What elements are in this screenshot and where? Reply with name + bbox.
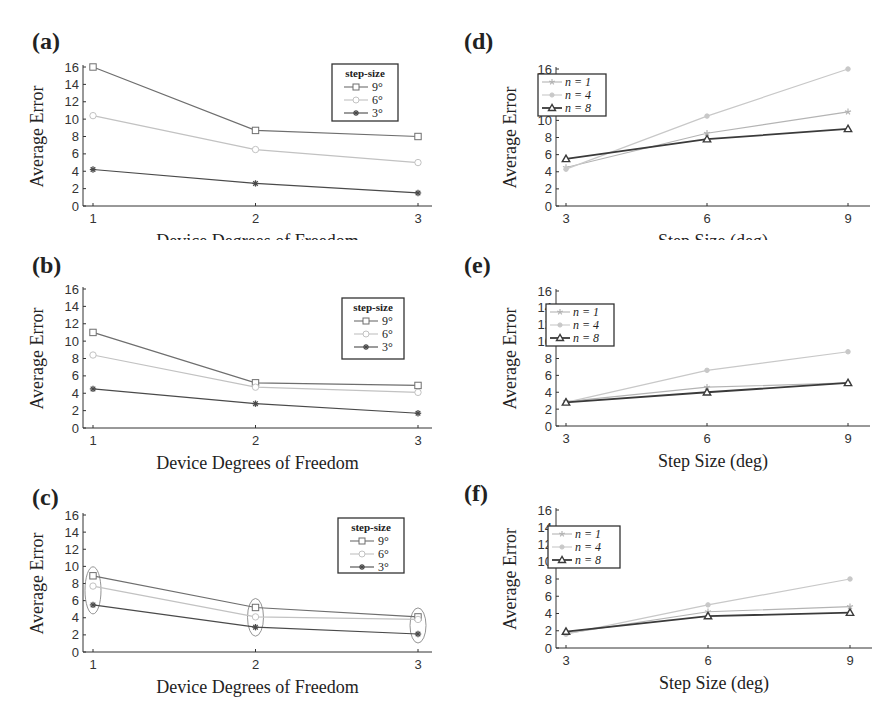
y-tick-label: 0 [72, 199, 79, 214]
chart-panel-b: (b)0246810121416123Device Degrees of Fre… [0, 240, 447, 480]
x-tick-label: 3 [562, 211, 569, 226]
y-axis-label: Average Error [27, 85, 47, 187]
y-tick-label: 16 [65, 282, 79, 297]
legend: step-size9°6°3° [342, 298, 404, 359]
x-axis-label: Step Size (deg) [659, 673, 769, 694]
x-tick-label: 1 [89, 433, 96, 448]
legend-entry: n = 4 [573, 318, 599, 332]
y-tick-label: 12 [65, 94, 79, 109]
x-tick-label: 2 [252, 657, 259, 672]
y-tick-label: 14 [65, 77, 79, 92]
dot-marker [564, 167, 568, 171]
x-tick-label: 3 [414, 433, 421, 448]
x-tick-label: 9 [846, 653, 853, 668]
asterisk-marker [353, 110, 359, 116]
legend: n = 1n = 4n = 8 [548, 526, 620, 568]
y-tick-label: 2 [72, 403, 79, 418]
y-tick-label: 4 [545, 164, 552, 179]
legend-entry: n = 8 [565, 101, 591, 115]
y-tick-label: 4 [72, 610, 79, 625]
y-tick-label: 8 [545, 572, 552, 587]
legend-title: step-size [345, 67, 385, 79]
square-marker [90, 64, 96, 70]
asterisk-marker [252, 624, 258, 630]
x-axis-label: Step Size (deg) [658, 451, 768, 472]
y-tick-label: 14 [65, 299, 79, 314]
square-marker [252, 127, 258, 133]
x-tick-label: 2 [252, 211, 259, 226]
dot-marker [560, 545, 564, 549]
y-tick-label: 2 [72, 181, 79, 196]
circle-marker [252, 614, 258, 620]
line-chart: 0246810121416369Step Size (deg)Average E… [440, 240, 887, 480]
x-axis-label: Device Degrees of Freedom [156, 453, 358, 473]
y-tick-label: 4 [72, 164, 79, 179]
annotation-ellipse [410, 608, 426, 643]
legend-title: step-size [353, 301, 393, 313]
y-tick-label: 8 [545, 351, 552, 366]
y-tick-label: 0 [72, 421, 79, 436]
y-tick-label: 16 [538, 284, 552, 299]
square-marker [359, 538, 365, 544]
x-tick-label: 2 [252, 433, 259, 448]
y-tick-label: 6 [72, 146, 79, 161]
y-tick-label: 6 [545, 589, 552, 604]
dot-marker [558, 323, 562, 327]
legend-entry: 3° [382, 340, 393, 354]
circle-marker [252, 146, 258, 152]
circle-marker [252, 384, 258, 390]
chart-panel-f: (f)0246810121416369Step Size (deg)Averag… [440, 480, 887, 720]
asterisk-marker [90, 602, 96, 608]
y-tick-label: 2 [545, 402, 552, 417]
y-tick-label: 4 [545, 606, 552, 621]
y-tick-label: 2 [72, 627, 79, 642]
circle-marker [363, 331, 369, 337]
y-tick-label: 8 [72, 129, 79, 144]
asterisk-marker [90, 166, 96, 172]
series-n4 [564, 350, 850, 405]
y-tick-label: 6 [72, 368, 79, 383]
y-tick-label: 10 [65, 334, 79, 349]
legend: n = 1n = 4n = 8 [546, 304, 614, 346]
y-axis-label: Average Error [500, 528, 520, 630]
y-tick-label: 6 [545, 147, 552, 162]
square-marker [415, 382, 421, 388]
y-tick-label: 16 [65, 508, 79, 523]
dot-marker [846, 67, 850, 71]
legend-title: step-size [351, 521, 391, 533]
chart-panel-e: (e)0246810121416369Step Size (deg)Averag… [440, 240, 887, 480]
y-tick-label: 4 [545, 385, 552, 400]
series-n8 [562, 609, 853, 634]
triangle-marker [704, 612, 711, 618]
y-axis-label: Average Error [500, 307, 520, 409]
line-chart: 0246810121416123Device Degrees of Freedo… [0, 480, 447, 720]
line-chart: 0246810121416369Step Size (deg)Average E… [440, 0, 887, 240]
legend: step-size9°6°3° [338, 518, 404, 574]
x-tick-label: 9 [844, 431, 851, 446]
y-tick-label: 0 [545, 199, 552, 214]
x-tick-label: 6 [703, 211, 710, 226]
asterisk-marker [415, 190, 421, 196]
line-chart: 0246810121416369Step Size (deg)Average E… [440, 480, 887, 720]
legend-entry: n = 1 [575, 527, 601, 541]
triangle-marker [562, 628, 569, 634]
legend-entry: 3° [372, 106, 383, 120]
series-n1 [563, 603, 853, 636]
series-9 [90, 573, 421, 621]
legend-entry: 9° [378, 534, 389, 548]
y-tick-label: 0 [545, 641, 552, 656]
x-axis-label: Step Size (deg) [658, 231, 768, 240]
line-chart: 0246810121416123Device Degrees of Freedo… [0, 0, 447, 240]
triangle-marker [703, 389, 710, 395]
y-tick-label: 8 [545, 130, 552, 145]
y-tick-label: 10 [65, 112, 79, 127]
series-n8 [562, 379, 851, 405]
legend-entry: 9° [382, 314, 393, 328]
dot-marker [706, 603, 710, 607]
y-tick-label: 6 [545, 368, 552, 383]
circle-marker [90, 583, 96, 589]
chart-panel-a: (a)0246810121416123Device Degrees of Fre… [0, 0, 447, 240]
circle-marker [359, 551, 365, 557]
square-marker [90, 573, 96, 579]
x-tick-label: 9 [844, 211, 851, 226]
